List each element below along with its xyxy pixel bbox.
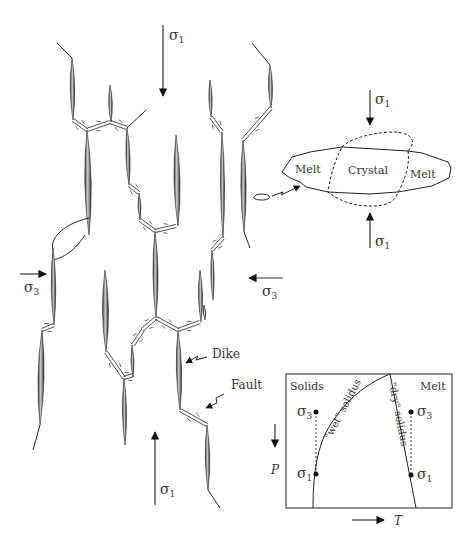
dike-lens xyxy=(138,193,141,220)
sigma3-right-arrow: σ3 xyxy=(249,278,283,301)
fault-segment xyxy=(105,351,126,379)
dike-lens xyxy=(211,250,214,300)
shear-sense-arrow xyxy=(96,121,101,130)
pressure-axis-label: P xyxy=(270,463,280,477)
dike-lens xyxy=(268,65,272,108)
dike-lens xyxy=(102,270,108,352)
fault-trace xyxy=(33,425,40,450)
svg-text:σ3: σ3 xyxy=(417,403,433,421)
fault-segment xyxy=(128,184,140,194)
fault-segment xyxy=(177,320,200,331)
fault-segment xyxy=(242,107,272,141)
melt-left-label: Melt xyxy=(295,163,321,176)
sigma1-bottom-arrow: σ1 xyxy=(155,432,175,505)
dike-lens xyxy=(126,128,130,185)
fault-trace xyxy=(208,490,220,508)
shear-sense-arrow xyxy=(187,321,191,330)
svg-text:σ1: σ1 xyxy=(375,233,390,251)
shear-sense-arrow xyxy=(163,224,168,234)
fault-trace xyxy=(127,110,146,128)
dike-lens xyxy=(203,305,205,320)
fault-trace xyxy=(52,218,89,260)
svg-text:σ3: σ3 xyxy=(297,403,313,421)
right-sigma3-point xyxy=(409,410,414,415)
sigma3-left-label: σ3 xyxy=(24,279,40,297)
dike-lens xyxy=(241,140,246,232)
shear-sense-arrow xyxy=(109,363,120,368)
fault-segment xyxy=(41,324,54,332)
temperature-axis-label: T xyxy=(394,514,403,528)
fault-segment xyxy=(155,224,177,232)
small-melt-blob xyxy=(254,194,270,200)
svg-text:σ1: σ1 xyxy=(417,466,432,484)
dike-lens xyxy=(38,330,44,425)
dike-lens xyxy=(122,378,126,445)
solids-label: Solids xyxy=(290,380,324,393)
dike-lens xyxy=(176,330,181,410)
pressure-axis: P xyxy=(270,424,280,477)
sigma3-right-label: σ3 xyxy=(262,283,278,301)
dike-lens xyxy=(209,80,212,117)
dike-lens xyxy=(153,231,158,318)
fault-segment xyxy=(155,317,179,332)
melt-label: Melt xyxy=(420,380,446,393)
dike-lens xyxy=(174,135,180,226)
phase-diagram-inset: Solids Melt "wet" solidus "dry" solidus … xyxy=(270,374,452,528)
inset-sigma1-bottom-arrow: σ1 xyxy=(370,213,390,251)
svg-text:σ1: σ1 xyxy=(375,91,390,109)
fault-annotation: Fault xyxy=(206,378,262,408)
fault-segment xyxy=(179,409,208,427)
fault-segment xyxy=(139,219,156,233)
left-sigma1-point xyxy=(314,472,319,477)
melt-path-arrow xyxy=(272,186,300,196)
sigma3-left-arrow: σ3 xyxy=(20,274,46,297)
dike-lens xyxy=(198,270,202,322)
grain-inset: σ1 σ1 Melt Crystal Melt xyxy=(254,90,451,251)
dike-lens xyxy=(220,132,224,238)
svg-text:σ1: σ1 xyxy=(297,465,312,483)
crystal-label: Crystal xyxy=(348,164,389,177)
inset-sigma1-top-arrow: σ1 xyxy=(370,90,390,125)
temperature-axis: T xyxy=(352,514,403,528)
fault-segment xyxy=(72,119,88,132)
fault-segment xyxy=(141,317,157,331)
melt-right-label: Melt xyxy=(410,168,436,181)
left-sigma3-point xyxy=(314,410,319,415)
dike-lens xyxy=(70,58,74,120)
fault-label: Fault xyxy=(231,378,262,392)
dike-fault-diagram: σ1 σ1 σ3 σ3 Dike Fault σ1 σ1 Melt Cry xyxy=(0,0,475,539)
right-sigma1-point xyxy=(409,473,414,478)
dike-annotation: Dike xyxy=(186,347,240,363)
shear-sense-arrow xyxy=(115,120,122,131)
phase-frame xyxy=(286,374,452,508)
fault-trace xyxy=(57,43,72,58)
fault-trace xyxy=(252,43,270,65)
dike-label: Dike xyxy=(212,347,240,361)
dry-solidus-label: "dry" solidus xyxy=(387,381,410,447)
wet-solidus-label: "wet" solidus xyxy=(322,377,363,441)
sigma1-top-label: σ1 xyxy=(169,27,184,45)
sigma1-top-arrow: σ1 xyxy=(163,25,184,96)
fault-segment xyxy=(132,329,145,346)
sigma1-bottom-label: σ1 xyxy=(160,481,175,499)
dike-lens xyxy=(131,345,134,377)
fault-segment xyxy=(86,120,110,131)
dike-lens xyxy=(109,85,113,122)
dike-network xyxy=(33,43,273,508)
dike-lens xyxy=(205,425,209,490)
fault-segment xyxy=(109,120,127,129)
fault-segment xyxy=(211,237,224,251)
fault-trace xyxy=(244,232,250,248)
